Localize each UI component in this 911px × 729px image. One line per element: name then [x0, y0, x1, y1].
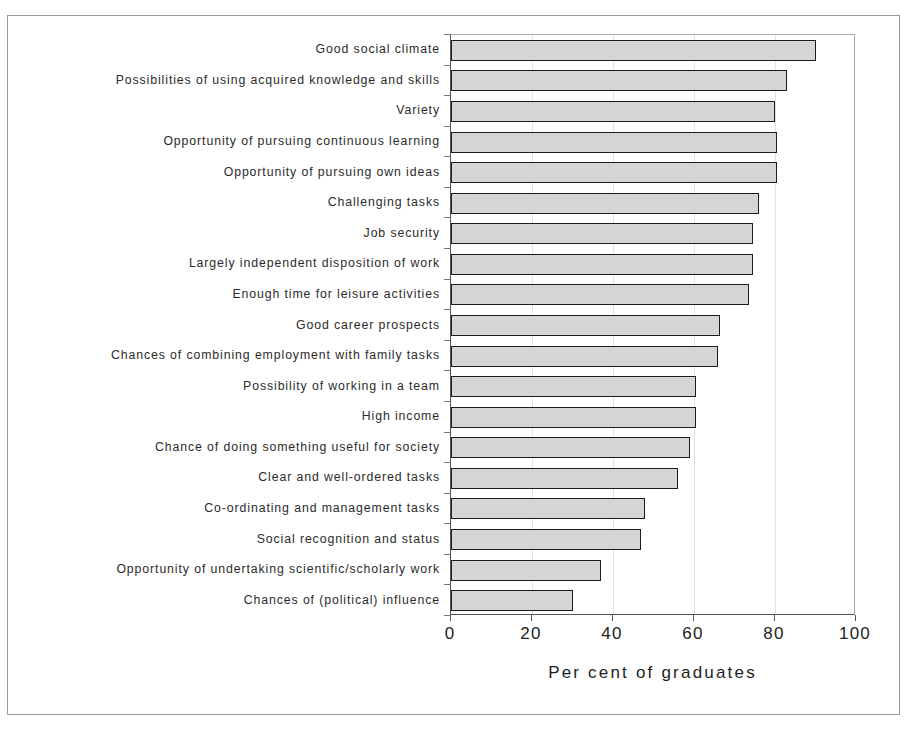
bar [451, 162, 777, 183]
category-label: Social recognition and status [257, 532, 440, 546]
y-axis-tick [444, 462, 450, 463]
bar [451, 407, 696, 428]
y-axis-tick [444, 248, 450, 249]
gridline [775, 35, 776, 614]
bar [451, 315, 720, 336]
x-axis-tick-label: 80 [763, 624, 784, 644]
bar [451, 40, 816, 61]
bar [451, 560, 601, 581]
x-axis-tick-label: 0 [445, 624, 456, 644]
y-axis-tick [444, 156, 450, 157]
y-axis-tick [444, 523, 450, 524]
x-axis-tick [531, 615, 532, 621]
y-axis-tick [444, 217, 450, 218]
bar [451, 254, 753, 275]
figure-container: Good social climatePossibilities of usin… [0, 0, 911, 729]
category-label: Good career prospects [296, 318, 440, 332]
category-label: Good social climate [316, 42, 440, 56]
bar [451, 223, 753, 244]
y-axis-tick [444, 34, 450, 35]
y-axis-tick [444, 309, 450, 310]
y-axis-tick [444, 401, 450, 402]
category-label: Clear and well-ordered tasks [258, 470, 440, 484]
x-axis-tick [693, 615, 694, 621]
x-axis-tick [450, 615, 451, 621]
y-axis-tick [444, 65, 450, 66]
x-axis-tick-label: 40 [601, 624, 622, 644]
bar [451, 193, 759, 214]
category-label: Largely independent disposition of work [189, 256, 440, 270]
y-axis-tick [444, 370, 450, 371]
x-axis-tick [855, 615, 856, 621]
category-label: Chances of (political) influence [244, 593, 440, 607]
bar [451, 284, 749, 305]
y-axis-tick [444, 187, 450, 188]
x-axis-title: Per cent of graduates [450, 663, 855, 683]
y-axis-tick [444, 554, 450, 555]
y-axis-tick [444, 95, 450, 96]
y-axis-tick [444, 432, 450, 433]
x-axis-tick-label: 20 [520, 624, 541, 644]
category-label: Possibility of working in a team [243, 379, 440, 393]
bar [451, 70, 787, 91]
x-axis-tick [612, 615, 613, 621]
x-axis-tick-label: 100 [839, 624, 871, 644]
category-label: Enough time for leisure activities [232, 287, 440, 301]
y-axis-tick [444, 493, 450, 494]
y-axis-tick [444, 279, 450, 280]
bar [451, 376, 696, 397]
y-axis-tick [444, 126, 450, 127]
bar [451, 590, 573, 611]
category-label: Opportunity of pursuing continuous learn… [163, 134, 440, 148]
x-axis-tick-label: 60 [682, 624, 703, 644]
plot-area [450, 34, 855, 615]
bar [451, 346, 718, 367]
category-label: Chances of combining employment with fam… [111, 348, 440, 362]
bar [451, 529, 641, 550]
x-axis-tick [774, 615, 775, 621]
category-label: Chance of doing something useful for soc… [155, 440, 440, 454]
bar [451, 498, 645, 519]
category-label: Variety [396, 103, 440, 117]
bar-chart: Good social climatePossibilities of usin… [0, 0, 911, 729]
bar [451, 437, 690, 458]
category-label: Possibilities of using acquired knowledg… [116, 73, 440, 87]
bar [451, 132, 777, 153]
category-label: Co-ordinating and management tasks [204, 501, 440, 515]
category-label: Job security [364, 226, 440, 240]
category-label: High income [362, 409, 440, 423]
category-label: Opportunity of undertaking scientific/sc… [116, 562, 440, 576]
y-axis-tick [444, 340, 450, 341]
bar [451, 101, 775, 122]
category-label: Opportunity of pursuing own ideas [224, 165, 440, 179]
y-axis-tick [444, 584, 450, 585]
bar [451, 468, 678, 489]
category-label: Challenging tasks [328, 195, 440, 209]
